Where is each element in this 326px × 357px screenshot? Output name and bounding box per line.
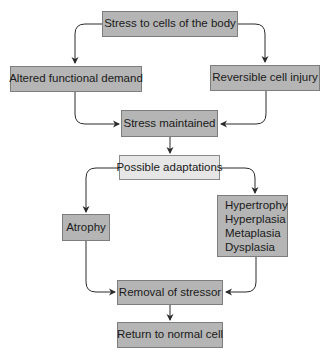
node-label: Altered functional demand: [9, 72, 143, 86]
node-stress-to-cells: Stress to cells of the body: [102, 11, 238, 37]
node-label: Stress to cells of the body: [104, 17, 236, 31]
node-label: Return to normal cell: [117, 328, 223, 342]
node-label: Possible adaptations: [116, 161, 222, 175]
node-adaptation-types: Hypertrophy Hyperplasia Metaplasia Dyspl…: [217, 195, 288, 257]
node-atrophy: Atrophy: [62, 214, 110, 241]
node-label: Atrophy: [66, 221, 106, 235]
node-label: Removal of stressor: [119, 286, 221, 300]
edge-altered-to-maintained: [75, 92, 119, 124]
adaptation-dysplasia: Dysplasia: [225, 240, 275, 254]
node-removal-of-stressor: Removal of stressor: [117, 280, 223, 305]
adaptation-hypertrophy: Hypertrophy: [225, 198, 288, 212]
node-label: Reversible cell injury: [212, 71, 317, 85]
edge-adaptations-to-atrophy: [86, 168, 119, 212]
node-altered-functional-demand: Altered functional demand: [10, 66, 142, 92]
edge-stress-to-reversible: [238, 24, 265, 62]
edge-atrophy-to-removal: [86, 241, 115, 292]
edge-list-to-removal: [226, 257, 256, 292]
adaptation-metaplasia: Metaplasia: [225, 226, 281, 240]
edge-adaptations-to-list: [220, 168, 255, 193]
edge-reversible-to-maintained: [221, 91, 266, 124]
node-return-to-normal-cell: Return to normal cell: [117, 322, 223, 348]
adaptation-hyperplasia: Hyperplasia: [225, 212, 286, 226]
flowchart-canvas: Stress to cells of the body Altered func…: [0, 0, 326, 357]
node-label: Stress maintained: [123, 117, 215, 131]
edge-stress-to-altered: [75, 24, 102, 63]
node-possible-adaptations: Possible adaptations: [119, 155, 220, 180]
node-reversible-cell-injury: Reversible cell injury: [210, 65, 320, 91]
node-stress-maintained: Stress maintained: [121, 110, 218, 137]
